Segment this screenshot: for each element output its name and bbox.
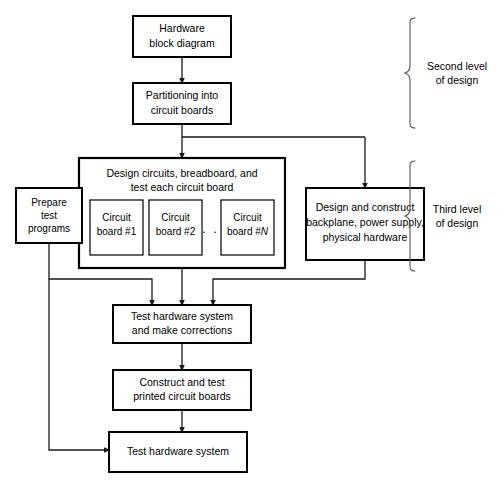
third-level-label-line1: Third level	[433, 203, 481, 215]
second-level-brace-shape	[405, 18, 415, 128]
hardware-block-diagram-line1: Hardware	[159, 22, 205, 34]
circuit-board-1-line2: board #1	[97, 226, 137, 237]
circuit-board-1-line1: Circuit	[102, 212, 131, 223]
node-partitioning: Partitioning into circuit boards	[133, 83, 231, 124]
circuit-board-n-line1: Circuit	[233, 212, 262, 223]
node-design-construct: Design and construct backplane, power su…	[306, 188, 424, 260]
second-level-label-line1: Second level	[427, 60, 487, 72]
prepare-test-programs-line2: test	[41, 210, 57, 221]
circuit-board-n-prefix: board #	[227, 226, 261, 237]
second-level-label-line2: of design	[436, 74, 479, 86]
node-prepare-test-programs: Prepare test programs	[16, 188, 82, 243]
hardware-block-diagram-line2: block diagram	[149, 37, 215, 49]
node-construct-printed-boards: Construct and test printed circuit board…	[113, 370, 251, 410]
design-construct-line2: backplane, power supply,	[306, 216, 424, 228]
test-hardware-corrections-line2: and make corrections	[132, 324, 232, 336]
circuit-board-2-line2: board #2	[156, 226, 196, 237]
prepare-test-programs-line3: programs	[28, 223, 70, 234]
node-circuit-board-n: Circuit board #N	[221, 200, 274, 255]
third-level-label-line2: of design	[436, 217, 479, 229]
test-hardware-corrections-line1: Test hardware system	[131, 310, 233, 322]
circuit-board-2-line1: Circuit	[161, 212, 190, 223]
node-circuit-board-2: Circuit board #2	[149, 200, 202, 255]
design-construct-line3: physical hardware	[323, 231, 408, 243]
node-test-hardware-system: Test hardware system	[109, 432, 247, 472]
circuit-board-n-italic: N	[261, 226, 269, 237]
partitioning-line2: circuit boards	[151, 104, 213, 116]
connector-prepare-to-test-hardware-system	[49, 279, 107, 450]
circuit-board-n-line2: board #N	[227, 226, 269, 237]
node-design-circuits-group: Design circuits, breadboard, and test ea…	[79, 158, 285, 268]
node-test-hardware-corrections: Test hardware system and make correction…	[113, 305, 251, 343]
design-circuits-line1: Design circuits, breadboard, and	[106, 167, 257, 179]
node-circuit-board-1: Circuit board #1	[90, 200, 143, 255]
design-circuits-line2: test each circuit board	[131, 181, 234, 193]
flowchart-svg: Hardware block diagram Partitioning into…	[0, 0, 504, 491]
brace-second-level: Second level of design	[405, 18, 487, 128]
design-construct-line1: Design and construct	[316, 201, 415, 213]
construct-printed-boards-line1: Construct and test	[139, 376, 224, 388]
flowchart-diagram: Hardware block diagram Partitioning into…	[0, 0, 504, 491]
partitioning-line1: Partitioning into	[146, 89, 219, 101]
prepare-test-programs-line1: Prepare	[31, 197, 67, 208]
test-hardware-system-line1: Test hardware system	[127, 445, 229, 457]
node-hardware-block-diagram: Hardware block diagram	[133, 16, 231, 57]
construct-printed-boards-line2: printed circuit boards	[133, 390, 230, 402]
